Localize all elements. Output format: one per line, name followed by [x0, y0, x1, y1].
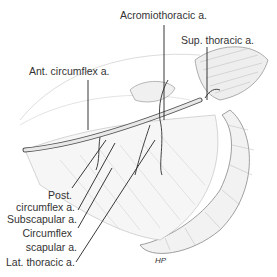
label-circumflex-scapular-line2: scapular a. [26, 241, 77, 253]
label-lat-thoracic: Lat. thoracic a. [6, 256, 75, 268]
label-post-circumflex-line2: circumflex a. [16, 201, 75, 213]
anatomical-illustration: Acromiothoracic a. Sup. thoracic a. Ant.… [0, 0, 277, 277]
label-post-circumflex-line1: Post. [48, 189, 72, 201]
label-subscapular: Subscapular a. [7, 213, 77, 225]
label-sup-thoracic: Sup. thoracic a. [181, 34, 254, 46]
label-circumflex-scapular-line1: Circumflex [22, 227, 72, 239]
label-acromiothoracic: Acromiothoracic a. [120, 9, 207, 21]
label-ant-circumflex: Ant. circumflex a. [29, 65, 110, 77]
artist-signature: HP [155, 255, 166, 267]
